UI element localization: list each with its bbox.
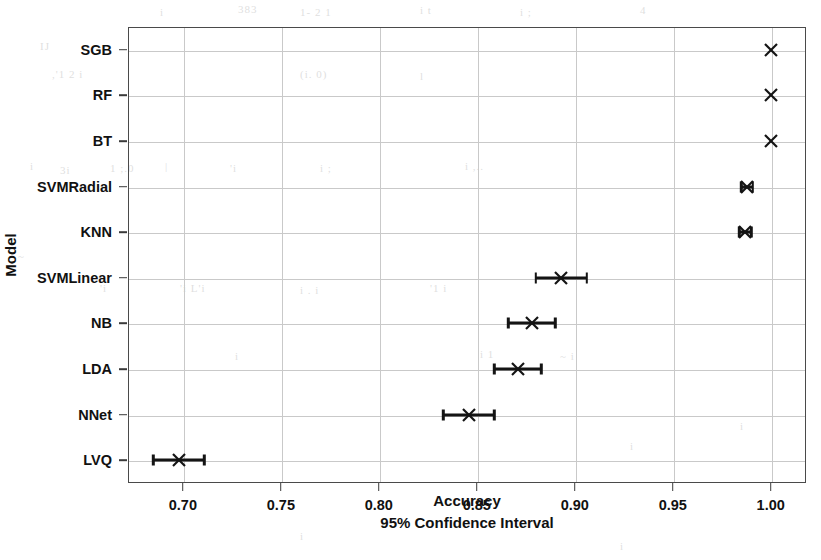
gridline-horizontal [129,96,805,97]
error-bar-cap [540,364,542,375]
y-tick-label-nb: NB [0,315,112,331]
y-tick-mark [119,323,127,325]
x-axis-subtitle: 95% Confidence Interval [128,514,806,531]
y-tick-label-lvq: LVQ [0,452,112,468]
x-tick-mark [672,483,674,491]
x-tick-mark [574,483,576,491]
gridline-horizontal [129,188,805,189]
scan-ghost-text: ,'1 2 i [52,68,83,80]
scan-ghost-text: i [300,530,304,542]
error-bar-cap [493,409,495,420]
x-tick-mark [280,483,282,491]
y-axis-title: Model [2,233,19,276]
y-tick-mark [119,49,127,51]
data-point-marker-knn [735,222,755,242]
error-bar-cap [442,409,444,420]
data-point-marker-sgb [761,40,781,60]
gridline-horizontal [129,279,805,280]
error-bar-cap [585,272,587,283]
error-bar-cap [203,455,205,466]
y-tick-mark [119,95,127,97]
scan-ghost-text: i [30,160,34,172]
y-tick-label-sgb: SGB [0,42,112,58]
data-point-marker-nb [522,313,542,333]
gridline-horizontal [129,233,805,234]
y-tick-label-svmradial: SVMRadial [0,179,112,195]
data-point-marker-bt [761,131,781,151]
y-tick-mark [119,140,127,142]
scan-ghost-text: 3i [60,164,71,176]
x-tick-mark [378,483,380,491]
data-point-marker-rf [761,85,781,105]
accuracy-confidence-interval-chart: i3831- 2 1i ti ;4IJ,'1 2 i(i. 0)li3i1 ;.… [0,0,821,560]
scan-ghost-text: i ; [520,6,532,18]
scan-ghost-text: 383 [238,3,258,15]
error-bar-cap [554,318,556,329]
y-tick-mark [119,414,127,416]
data-point-marker-nnet [459,405,479,425]
x-tick-mark [770,483,772,491]
gridline-horizontal [129,461,805,462]
data-point-marker-svmradial [737,177,757,197]
y-tick-mark [119,231,127,233]
scan-ghost-text: i [160,6,164,18]
gridline-horizontal [129,51,805,52]
data-point-marker-svmlinear [551,268,571,288]
scan-ghost-text: i t [420,4,432,16]
error-bar-cap [507,318,509,329]
data-point-marker-lvq [169,450,189,470]
gridline-horizontal [129,324,805,325]
scan-ghost-text: 4 [640,4,647,16]
scan-ghost-text: 1- 2 1 [300,6,332,18]
x-tick-mark [182,483,184,491]
y-tick-label-nnet: NNet [0,407,112,423]
y-tick-label-bt: BT [0,133,112,149]
y-tick-mark [119,186,127,188]
y-tick-mark [119,368,127,370]
error-bar-cap [493,364,495,375]
x-axis-title: Accuracy [128,492,806,509]
scan-ghost-text: i [620,540,624,552]
error-bar-cap [152,455,154,466]
error-bar-cap [534,272,536,283]
y-tick-mark [119,277,127,279]
y-tick-label-lda: LDA [0,361,112,377]
gridline-horizontal [129,142,805,143]
y-tick-mark [119,459,127,461]
gridline-horizontal [129,370,805,371]
x-tick-mark [476,483,478,491]
scan-ghost-text: ~ [18,250,25,262]
data-point-marker-lda [508,359,528,379]
y-tick-label-rf: RF [0,87,112,103]
